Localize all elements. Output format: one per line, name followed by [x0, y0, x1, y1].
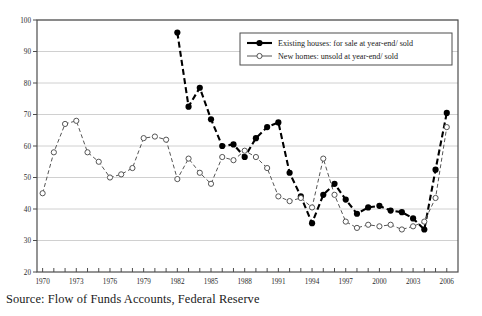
- x-axis-tick-label: 1982: [170, 278, 185, 286]
- x-axis-tick-label: 1997: [339, 278, 354, 286]
- data-point-marker: [152, 134, 157, 139]
- series-new-homes: [40, 118, 449, 232]
- data-point-marker: [253, 154, 258, 159]
- housing-inventory-line-chart: 2030405060708090100197019731976197919821…: [0, 0, 482, 316]
- x-axis-tick-label: 2006: [440, 278, 455, 286]
- data-point-marker: [185, 104, 191, 110]
- data-point-marker: [85, 150, 90, 155]
- data-point-marker: [130, 165, 135, 170]
- y-axis-tick-label: 60: [24, 143, 32, 151]
- data-point-marker: [287, 170, 293, 176]
- data-point-marker: [219, 143, 225, 149]
- y-axis-tick-label: 50: [24, 174, 32, 182]
- data-point-marker: [208, 181, 213, 186]
- data-point-marker: [343, 219, 348, 224]
- legend-marker: [257, 53, 262, 58]
- legend-label: Existing houses: for sale at year-end/ s…: [278, 39, 413, 48]
- y-axis-tick-label: 30: [24, 237, 32, 245]
- data-point-marker: [265, 165, 270, 170]
- data-point-marker: [175, 176, 180, 181]
- data-point-marker: [354, 225, 359, 230]
- x-axis-tick-label: 1985: [204, 278, 219, 286]
- data-point-marker: [174, 29, 180, 35]
- data-point-marker: [422, 219, 427, 224]
- data-point-marker: [164, 137, 169, 142]
- data-point-marker: [275, 119, 281, 125]
- data-point-marker: [321, 156, 326, 161]
- data-point-marker: [309, 220, 315, 226]
- data-point-marker: [186, 156, 191, 161]
- data-point-marker: [376, 203, 382, 209]
- data-point-marker: [377, 224, 382, 229]
- data-point-marker: [298, 195, 303, 200]
- data-point-marker: [287, 199, 292, 204]
- data-point-marker: [276, 194, 281, 199]
- data-point-marker: [220, 154, 225, 159]
- legend-marker: [256, 40, 262, 46]
- data-point-marker: [432, 167, 438, 173]
- data-point-marker: [107, 175, 112, 180]
- y-axis-tick-label: 80: [24, 80, 32, 88]
- chart-figure: 2030405060708090100197019731976197919821…: [0, 0, 482, 316]
- x-axis-tick-label: 2003: [406, 278, 421, 286]
- data-point-marker: [410, 215, 416, 221]
- data-point-marker: [253, 135, 259, 141]
- data-point-marker: [388, 207, 394, 213]
- x-axis-tick-label: 1991: [271, 278, 286, 286]
- data-point-marker: [354, 211, 360, 217]
- y-axis-tick-label: 100: [20, 17, 31, 25]
- data-point-marker: [264, 124, 270, 130]
- x-axis-tick-label: 1973: [69, 278, 84, 286]
- data-point-marker: [410, 224, 415, 229]
- y-axis-tick-label: 20: [24, 269, 32, 277]
- data-point-marker: [141, 136, 146, 141]
- legend-label: New homes: unsold at year-end/ sold: [278, 52, 398, 61]
- legend: Existing houses: for sale at year-end/ s…: [240, 33, 452, 65]
- x-axis-tick-label: 2000: [372, 278, 387, 286]
- data-point-marker: [421, 226, 427, 232]
- data-point-marker: [62, 121, 67, 126]
- data-point-marker: [309, 205, 314, 210]
- data-point-marker: [444, 125, 449, 130]
- data-point-marker: [40, 191, 45, 196]
- data-point-marker: [331, 181, 337, 187]
- series-line: [43, 121, 447, 230]
- data-point-marker: [242, 154, 248, 160]
- data-point-marker: [96, 159, 101, 164]
- x-axis-tick-label: 1988: [238, 278, 253, 286]
- data-point-marker: [433, 195, 438, 200]
- data-point-marker: [399, 227, 404, 232]
- data-point-marker: [320, 192, 326, 198]
- data-point-marker: [74, 118, 79, 123]
- x-axis-tick-label: 1970: [35, 278, 50, 286]
- data-point-marker: [197, 170, 202, 175]
- x-axis-tick-label: 1976: [103, 278, 118, 286]
- data-point-marker: [366, 222, 371, 227]
- source-caption: Source: Flow of Funds Accounts, Federal …: [6, 292, 260, 307]
- data-point-marker: [444, 110, 450, 116]
- data-point-marker: [197, 85, 203, 91]
- data-point-marker: [388, 222, 393, 227]
- y-axis-tick-label: 40: [24, 206, 32, 214]
- data-point-marker: [231, 158, 236, 163]
- data-point-marker: [365, 204, 371, 210]
- x-axis-tick-label: 1979: [136, 278, 151, 286]
- data-point-marker: [230, 141, 236, 147]
- data-point-marker: [119, 172, 124, 177]
- data-point-marker: [208, 116, 214, 122]
- y-axis-tick-label: 90: [24, 48, 32, 56]
- data-point-marker: [242, 148, 247, 153]
- data-point-marker: [343, 196, 349, 202]
- x-axis-tick-label: 1994: [305, 278, 320, 286]
- y-axis-tick-label: 70: [24, 111, 32, 119]
- data-point-marker: [51, 150, 56, 155]
- data-point-marker: [399, 209, 405, 215]
- data-point-marker: [332, 192, 337, 197]
